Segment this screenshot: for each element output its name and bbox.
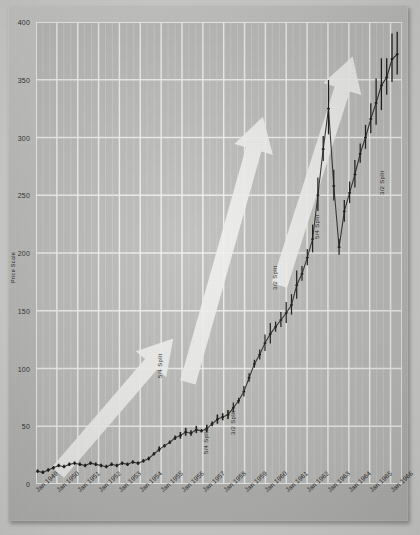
y-axis-tick-label: 400 [4,19,30,26]
split-annotation: 3/2 Split [379,171,385,195]
y-axis-title: Price Scale [10,252,16,283]
split-annotation: 3/2 Split [272,266,278,290]
price-line [38,54,398,472]
y-axis-tick-label: 350 [4,76,30,83]
plot-area [36,22,402,484]
split-annotation: 3/2 Split [230,411,236,435]
split-annotation: 5/4 Split [157,353,163,377]
y-axis-tick-label: 0 [4,481,30,488]
y-axis-tick-label: 150 [4,307,30,314]
y-axis-tick-label: 100 [4,365,30,372]
split-annotation: 5/4 Split [314,215,320,239]
chart-screenshot: 050100150200250300350400 Price Scale Jan… [0,0,420,535]
y-axis-tick-label: 200 [4,250,30,257]
y-axis-tick-label: 50 [4,423,30,430]
split-annotation: 5/4 Split [203,430,209,454]
y-axis-tick-label: 250 [4,192,30,199]
y-axis-tick-label: 300 [4,134,30,141]
price-series-bars [36,22,402,484]
